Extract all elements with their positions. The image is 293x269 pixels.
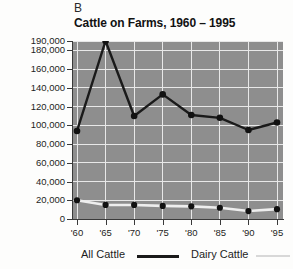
x-axis-label: '70 <box>128 228 140 238</box>
chart-figure: B Cattle on Farms, 1960 – 1995 020,00040… <box>0 0 293 269</box>
y-axis-label: 40,000 <box>36 177 65 187</box>
horizontal-gridlines <box>73 41 283 200</box>
x-axis-tick <box>248 220 249 225</box>
legend-label-dairy-cattle: Dairy Cattle <box>191 248 248 260</box>
x-axis-tick <box>163 220 164 225</box>
x-axis-tick <box>220 220 221 225</box>
x-axis-tick <box>134 220 135 225</box>
y-axis-label: 20,000 <box>36 195 65 205</box>
chart-title: Cattle on Farms, 1960 – 1995 <box>74 16 235 30</box>
x-axis-label: '90 <box>242 228 254 238</box>
series-dairy-cattle <box>74 197 280 214</box>
y-axis-label: 60,000 <box>36 158 65 168</box>
legend-swatch-dairy-cattle <box>256 255 290 257</box>
chart-legend: All Cattle Dairy Cattle <box>73 248 288 264</box>
y-axis-spine <box>72 41 73 220</box>
y-axis-label: 80,000 <box>36 139 65 149</box>
x-axis-label: '95 <box>271 228 283 238</box>
y-axis-label: 0 <box>60 214 65 224</box>
legend-swatch-all-cattle <box>137 255 179 258</box>
x-axis-label: '75 <box>156 228 168 238</box>
chart-canvas <box>73 41 283 219</box>
x-axis-label: '85 <box>214 228 226 238</box>
y-axis-label: 160,000 <box>31 64 65 74</box>
x-axis-label: '60 <box>71 228 83 238</box>
x-axis-tick <box>77 220 78 225</box>
y-axis-label: 140,000 <box>31 83 65 93</box>
y-axis-label: 100,000 <box>31 120 65 130</box>
y-axis-label: 120,000 <box>31 102 65 112</box>
x-axis-tick <box>277 220 278 225</box>
x-axis-tick <box>191 220 192 225</box>
plot-area <box>73 41 283 219</box>
y-axis-label: 180,000 <box>31 45 65 55</box>
panel-letter: B <box>74 2 82 14</box>
x-axis-tick <box>106 220 107 225</box>
y-axis-label: 190,000 <box>31 36 65 46</box>
legend-label-all-cattle: All Cattle <box>81 248 125 260</box>
x-axis-label: '65 <box>99 228 111 238</box>
x-axis-spine <box>72 219 284 220</box>
x-axis-label: '80 <box>185 228 197 238</box>
